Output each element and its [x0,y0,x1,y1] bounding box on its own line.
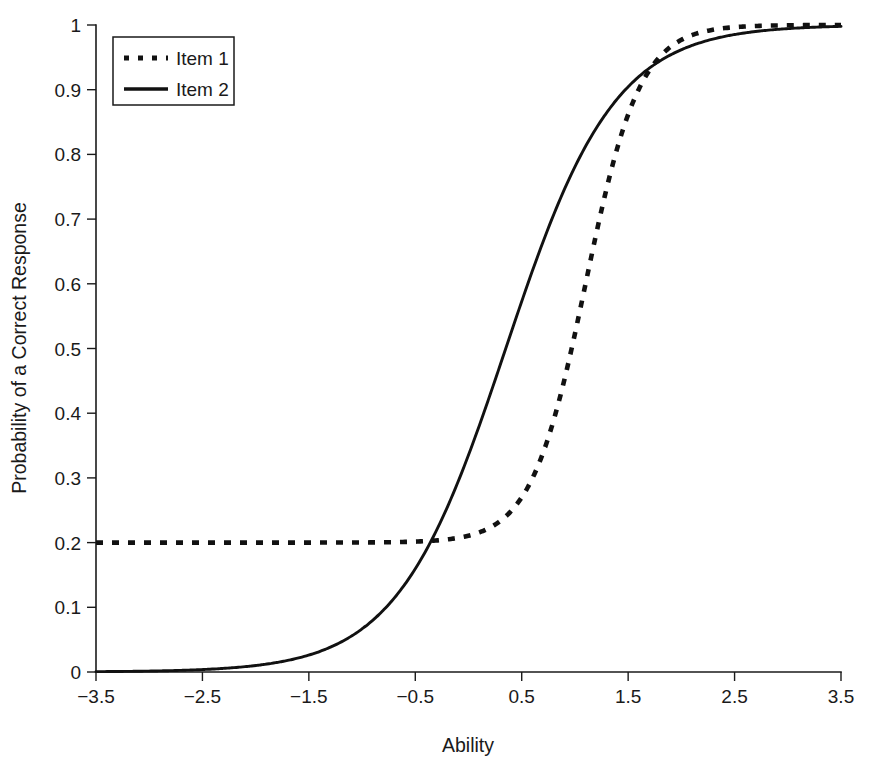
x-tick-label: 1.5 [615,686,641,707]
x-tick-label: 3.5 [828,686,854,707]
legend-label-item-1: Item 1 [176,48,229,69]
y-tick-label: 0.2 [55,533,81,554]
y-tick-label: 0.6 [55,274,81,295]
y-tick-label: 0.7 [55,209,81,230]
y-tick-label: 0.1 [55,597,81,618]
y-axis-ticks: 00.10.20.30.40.50.60.70.80.91 [55,15,96,683]
x-tick-label: −3.5 [77,686,115,707]
chart-canvas: 00.10.20.30.40.50.60.70.80.91 −3.5−2.5−1… [0,0,872,767]
axis-group [96,25,841,672]
y-tick-label: 0.5 [55,339,81,360]
y-tick-label: 0.4 [55,403,82,424]
item-characteristic-curve-figure: 00.10.20.30.40.50.60.70.80.91 −3.5−2.5−1… [0,0,872,767]
y-tick-label: 0.9 [55,80,81,101]
series-item-2-curve [96,26,841,671]
legend-label-item-2: Item 2 [176,79,229,100]
x-tick-label: −0.5 [397,686,435,707]
series-group [96,25,841,672]
legend: Item 1 Item 2 [113,37,234,105]
y-tick-label: 0.3 [55,468,81,489]
x-tick-label: −1.5 [290,686,328,707]
x-tick-label: −2.5 [184,686,222,707]
x-tick-label: 0.5 [509,686,535,707]
x-axis-ticks: −3.5−2.5−1.5−0.50.51.52.53.5 [77,672,854,707]
y-axis-title: Probability of a Correct Response [8,202,30,494]
y-tick-label: 1 [70,15,81,36]
y-tick-label: 0 [70,662,81,683]
x-tick-label: 2.5 [721,686,747,707]
y-tick-label: 0.8 [55,144,81,165]
x-axis-title: Ability [442,734,494,756]
